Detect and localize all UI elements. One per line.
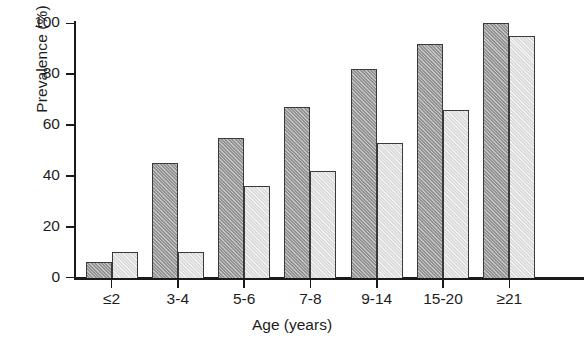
y-axis-tick-label: 20 [20, 217, 60, 235]
y-axis-tick-label: 40 [20, 166, 60, 184]
x-axis-tick-label: ≥21 [469, 290, 549, 308]
x-axis-tick [243, 279, 245, 288]
y-axis-line [74, 21, 76, 279]
y-axis-tick [66, 23, 75, 25]
bar-series-2-1 [178, 252, 204, 278]
y-axis-tick-label: 0 [20, 268, 60, 286]
y-axis-tick-label: 100 [20, 13, 60, 31]
bar-series-1-3 [284, 107, 310, 278]
prevalence-by-age-bar-chart: Prevalence (%) 020406080100 ≤23-45-67-89… [0, 0, 584, 338]
bar-series-2-2 [244, 186, 270, 279]
bar-series-2-6 [509, 36, 535, 278]
x-axis-tick [177, 279, 179, 288]
bar-series-1-5 [417, 44, 443, 279]
y-axis-tick [66, 226, 75, 228]
x-axis-tick [509, 279, 511, 288]
y-axis-tick-label: 80 [20, 64, 60, 82]
y-axis-tick [66, 124, 75, 126]
y-axis-tick-label: 60 [20, 115, 60, 133]
x-axis-title: Age (years) [0, 316, 584, 334]
bar-series-1-6 [483, 23, 509, 278]
y-axis-tick [66, 73, 75, 75]
y-axis-tick [66, 277, 75, 279]
x-axis-tick [376, 279, 378, 288]
x-axis-tick [442, 279, 444, 288]
bar-series-2-0 [112, 252, 138, 278]
bar-series-1-2 [218, 138, 244, 279]
bar-series-2-5 [443, 110, 469, 279]
bar-series-2-3 [310, 171, 336, 279]
bar-series-1-0 [86, 262, 112, 278]
x-axis-tick [310, 279, 312, 288]
bar-series-2-4 [377, 143, 403, 279]
y-axis-tick [66, 175, 75, 177]
x-axis-tick [111, 279, 113, 288]
bar-series-1-4 [351, 69, 377, 278]
bar-series-1-1 [152, 163, 178, 278]
